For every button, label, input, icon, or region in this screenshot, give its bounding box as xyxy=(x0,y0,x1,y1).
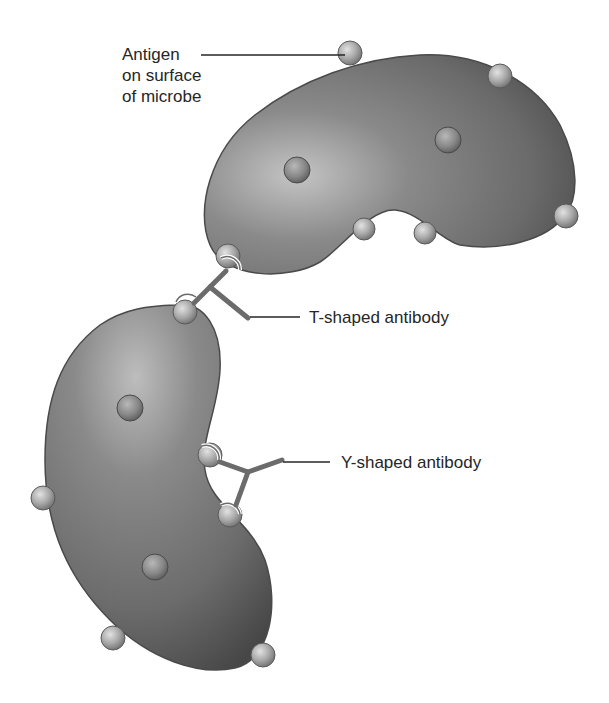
lower-microbe xyxy=(31,300,275,670)
y-shaped-antibody-label: Y-shaped antibody xyxy=(341,452,481,473)
antibody-antigen-diagram xyxy=(0,0,609,703)
lower-microbe-body xyxy=(45,304,272,670)
t-shaped-antibody-label: T-shaped antibody xyxy=(309,307,449,328)
upper-microbe xyxy=(204,41,578,274)
upper-microbe-body xyxy=(204,55,575,274)
antigen-label: Antigen on surface of microbe xyxy=(122,44,201,107)
